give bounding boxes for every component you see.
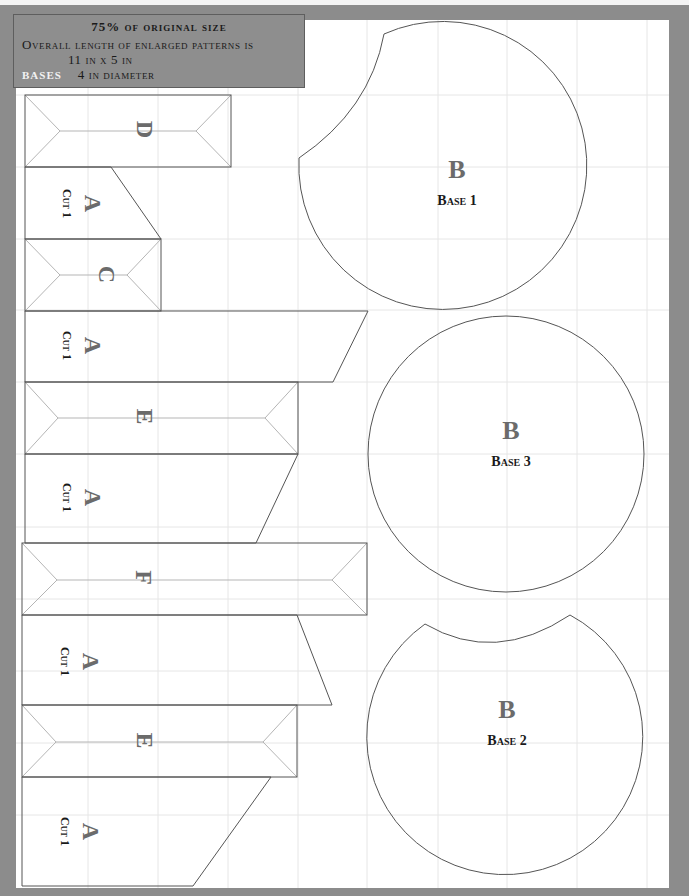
- piece-e2-letter: E: [131, 732, 158, 748]
- scale-title: 75% of original size: [14, 19, 304, 35]
- piece-a1-letter: A: [79, 195, 106, 212]
- base-1-label: B Base 1: [407, 155, 507, 209]
- piece-d-letter: D: [131, 121, 158, 138]
- base-3-name: Base 3: [461, 454, 561, 470]
- base-2-label: B Base 2: [457, 695, 557, 749]
- piece-e1-letter: E: [131, 408, 158, 424]
- base-3-label: B Base 3: [461, 416, 561, 470]
- piece-a4-cut: Cut 1: [57, 647, 72, 676]
- piece-a5-letter: A: [77, 823, 104, 840]
- piece-c-letter: C: [93, 266, 120, 283]
- piece-a3-letter: A: [79, 489, 106, 506]
- piece-a1-cut: Cut 1: [59, 189, 74, 218]
- scale-info-box: 75% of original size Overall length of e…: [13, 14, 305, 88]
- piece-a2-letter: A: [79, 337, 106, 354]
- overall-length-label: Overall length of enlarged patterns is: [22, 37, 254, 53]
- base-2-name: Base 2: [457, 733, 557, 749]
- piece-a5-cut: Cut 1: [57, 817, 72, 846]
- piece-e2-outline: [22, 705, 297, 777]
- piece-f-outline: [22, 543, 367, 615]
- overall-length-value: 11 in x 5 in: [68, 52, 133, 68]
- bases-line: BASES4 in diameter: [22, 67, 155, 83]
- base-2-letter: B: [457, 695, 557, 725]
- base-3-letter: B: [461, 416, 561, 446]
- piece-f-letter: F: [130, 570, 157, 585]
- piece-a2-cut: Cut 1: [59, 331, 74, 360]
- bases-label: BASES: [22, 69, 62, 81]
- base-1-name: Base 1: [407, 193, 507, 209]
- pattern-drawing: [0, 0, 689, 896]
- base-1-letter: B: [407, 155, 507, 185]
- piece-a4-letter: A: [77, 653, 104, 670]
- piece-a2-outline: [25, 311, 368, 382]
- bases-diameter: 4 in diameter: [78, 67, 155, 82]
- piece-a3-cut: Cut 1: [59, 483, 74, 512]
